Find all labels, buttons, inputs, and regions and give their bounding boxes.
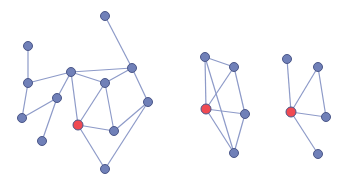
graph-1-edge — [22, 83, 28, 118]
edges-layer — [22, 16, 326, 169]
graph-2-edge — [206, 109, 234, 153]
graph-3-edge — [287, 59, 291, 112]
graph-1-edge — [105, 83, 114, 131]
graph-1-node — [18, 114, 27, 123]
graph-3-edge — [318, 67, 326, 117]
graph-1-node — [101, 79, 110, 88]
graph-3-highlighted-node — [286, 107, 296, 117]
graph-2-node — [201, 53, 210, 62]
graph-1-node — [53, 94, 62, 103]
graph-3-node — [314, 150, 323, 159]
graph-1-node — [24, 79, 33, 88]
nodes-layer — [18, 12, 331, 174]
graph-1-node — [101, 165, 110, 174]
graph-1-edge — [71, 68, 132, 72]
graph-2-edge — [234, 67, 245, 114]
graph-1-node — [24, 42, 33, 51]
graph-1-edge — [42, 98, 57, 141]
graph-1-node — [67, 68, 76, 77]
graph-1-highlighted-node — [73, 120, 83, 130]
graph-3-edge — [291, 67, 318, 112]
graph-1-node — [144, 98, 153, 107]
graph-3-node — [322, 113, 331, 122]
graph-1-edge — [71, 72, 105, 83]
graph-1-edge — [71, 72, 78, 125]
graph-1-edge — [78, 83, 105, 125]
graph-1-edge — [78, 125, 105, 169]
graph-3-edge — [291, 112, 318, 154]
graph-2-edge — [206, 109, 245, 114]
graph-1-node — [110, 127, 119, 136]
graph-3-node — [283, 55, 292, 64]
graph-2-edge — [205, 57, 206, 109]
graph-1-node — [128, 64, 137, 73]
graph-2-node — [230, 149, 239, 158]
graph-1-edge — [22, 98, 57, 118]
graph-diagram-canvas — [0, 0, 346, 180]
graph-1-node — [38, 137, 47, 146]
graph-1-edge — [28, 72, 71, 83]
graph-2-highlighted-node — [201, 104, 211, 114]
graph-3-node — [314, 63, 323, 72]
graph-1-edge — [105, 102, 148, 169]
graph-1-edge — [105, 16, 132, 68]
graph-1-node — [101, 12, 110, 21]
graph-1-edge — [114, 102, 148, 131]
graph-1-edge — [132, 68, 148, 102]
graph-2-node — [241, 110, 250, 119]
graph-2-edge — [234, 114, 245, 153]
graph-2-node — [230, 63, 239, 72]
